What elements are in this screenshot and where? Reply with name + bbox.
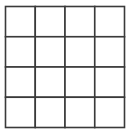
grid-cell-r4-c3 [65,97,95,127]
grid-cell-r1-c1 [6,7,36,37]
grid-cell-r4-c2 [35,97,65,127]
grid-cell-r2-c4 [95,37,125,67]
grid-cell-r3-c3 [65,67,95,97]
grid-cell-r3-c1 [6,67,36,97]
grid-cell-r3-c2 [35,67,65,97]
grid-cell-r4-c1 [6,97,36,127]
grid-diagram [0,0,127,132]
grid-cell-r2-c2 [35,37,65,67]
grid-cell-r4-c4 [95,97,125,127]
grid-cell-r3-c4 [95,67,125,97]
grid-cell-r1-c4 [95,7,125,37]
grid-cell-r2-c1 [6,37,36,67]
grid-cell-r1-c2 [35,7,65,37]
grid-cell-r1-c3 [65,7,95,37]
grid-cell-r2-c3 [65,37,95,67]
